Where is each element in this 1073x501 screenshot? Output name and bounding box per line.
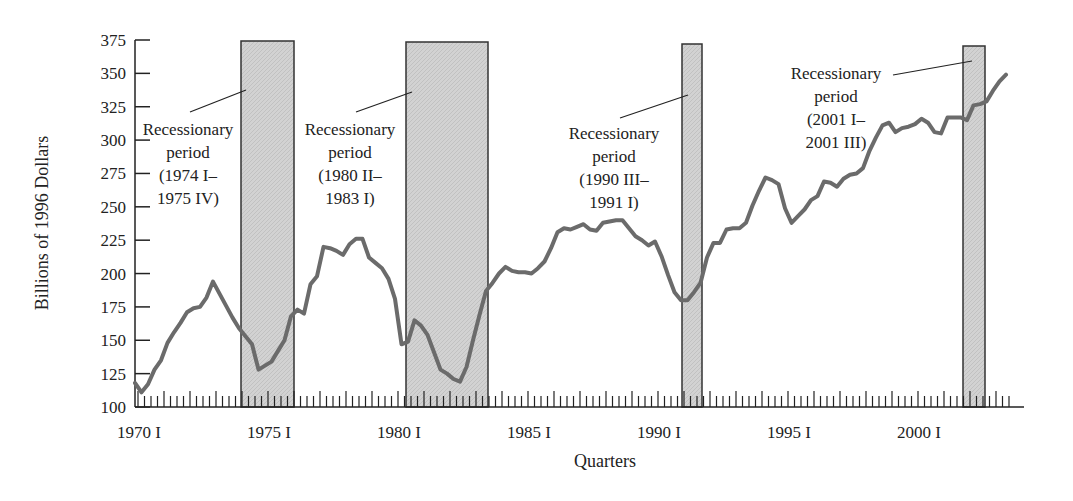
y-tick-label: 350 xyxy=(101,64,127,83)
svg-text:(1990 III–: (1990 III– xyxy=(579,170,649,189)
svg-text:1975 IV): 1975 IV) xyxy=(157,189,219,208)
recession-bar-1980 xyxy=(406,42,488,407)
recession-bar-1990 xyxy=(682,44,702,407)
y-tick-label: 225 xyxy=(101,231,127,250)
y-axis-title: Billions of 1996 Dollars xyxy=(32,136,52,311)
recession-bars xyxy=(241,41,985,407)
annotation-1990: Recessionary period (1990 III– 1991 I) xyxy=(569,124,660,212)
annotation-1980: Recessionary period (1980 II– 1983 I) xyxy=(305,120,396,208)
svg-text:period: period xyxy=(166,143,210,162)
svg-text:(1974 I–: (1974 I– xyxy=(159,166,218,185)
y-tick-label: 175 xyxy=(101,298,127,317)
svg-text:(1980 II–: (1980 II– xyxy=(318,166,382,185)
y-axis: 100125150175200225250275300325350375 xyxy=(101,31,151,417)
investment-chart: 100125150175200225250275300325350375 197… xyxy=(0,0,1073,501)
svg-text:Recessionary: Recessionary xyxy=(305,120,396,139)
svg-text:2001 III): 2001 III) xyxy=(806,133,867,152)
svg-text:Recessionary: Recessionary xyxy=(569,124,660,143)
svg-text:period: period xyxy=(328,143,372,162)
svg-text:1991 I): 1991 I) xyxy=(589,193,639,212)
annotation-1974: Recessionary period (1974 I– 1975 IV) xyxy=(143,120,234,208)
annotation-2001: Recessionary period (2001 I– 2001 III) xyxy=(791,64,882,152)
svg-text:1983 I): 1983 I) xyxy=(325,189,375,208)
y-tick-label: 100 xyxy=(101,398,127,417)
y-tick-label: 325 xyxy=(101,98,127,117)
x-tick-label: 1970 I xyxy=(117,423,161,442)
x-tick-label: 1990 I xyxy=(637,423,681,442)
svg-text:period: period xyxy=(592,147,636,166)
y-tick-label: 125 xyxy=(101,365,127,384)
x-tick-label: 1980 I xyxy=(377,423,421,442)
y-tick-label: 250 xyxy=(101,198,127,217)
recession-bar-1974 xyxy=(241,41,294,407)
y-tick-label: 300 xyxy=(101,131,127,150)
x-tick-label: 1975 I xyxy=(247,423,291,442)
x-axis-title: Quarters xyxy=(574,451,636,471)
y-tick-label: 200 xyxy=(101,265,127,284)
svg-text:(2001 I–: (2001 I– xyxy=(807,110,866,129)
recession-bar-2001 xyxy=(963,46,985,407)
svg-text:period: period xyxy=(814,87,858,106)
x-tick-label: 1995 I xyxy=(767,423,811,442)
x-tick-label: 1985 I xyxy=(507,423,551,442)
svg-text:Recessionary: Recessionary xyxy=(143,120,234,139)
y-tick-label: 275 xyxy=(101,164,127,183)
y-tick-label: 375 xyxy=(101,31,127,50)
x-tick-label: 2000 I xyxy=(897,423,941,442)
y-tick-label: 150 xyxy=(101,331,127,350)
svg-text:Recessionary: Recessionary xyxy=(791,64,882,83)
